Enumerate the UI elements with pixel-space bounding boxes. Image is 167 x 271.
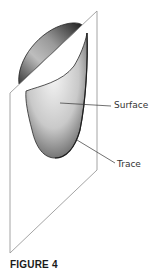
surface-trace-diagram [0, 0, 167, 271]
trace-leader-line [77, 140, 115, 163]
surface-label: Surface [114, 100, 148, 110]
trace-label: Trace [117, 159, 141, 169]
figure-caption: FIGURE 4 [10, 259, 58, 270]
